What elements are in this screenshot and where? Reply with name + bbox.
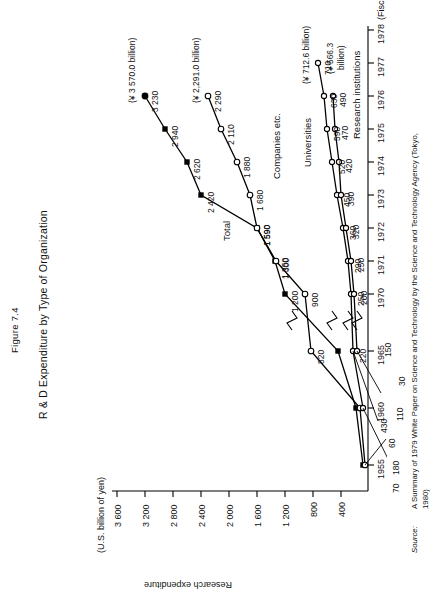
x-tick-1978: 1978 (377, 24, 386, 44)
point-label-institutions-1971: 250 (357, 258, 366, 272)
x-tick-1972: 1972 (377, 222, 386, 242)
series-label-total: Total (222, 221, 232, 241)
point-label-total-1970: 1 200 (291, 291, 300, 312)
x-tick-1973: 1973 (377, 189, 386, 209)
source-prefix: Source: (411, 526, 419, 553)
endnote-institutions-2: billion) (337, 45, 346, 70)
series-companies (208, 96, 365, 465)
point-label-universities-1965: 220 (359, 349, 368, 363)
point-label-companies-1960: 110 (396, 407, 405, 421)
point-label-institutions-1970: 200 (360, 291, 369, 305)
x-tick-1975: 1975 (377, 123, 386, 143)
series-label-universities: Universities (303, 118, 313, 167)
point-label-institutions-1965: 150 (384, 343, 393, 357)
x-axis-title: (Fiscal year) (377, 0, 386, 20)
point-label-companies-1965: 820 (317, 350, 326, 364)
point-label-total-1965: 430 (380, 419, 389, 433)
point-label-companies-1970: 900 (311, 293, 320, 307)
x-tick-1976: 1976 (377, 90, 386, 110)
series-label-institutions: Research institutions (352, 51, 362, 139)
source-line-2: 1980) (422, 489, 430, 509)
point-label-companies-1972: 1 590 (263, 225, 272, 246)
point-label-total-1960: 180 (392, 461, 401, 475)
x-tick-1971: 1971 (377, 255, 386, 275)
endnote-companies: (¥ 2,291.0 billion) (192, 38, 201, 103)
point-label-companies-1971: 1 300 (282, 258, 291, 279)
point-label-total-1974: 2 620 (193, 159, 202, 180)
point-label-total-1955: 60 (388, 439, 397, 448)
point-label-institutions-1974: 420 (345, 159, 354, 173)
point-label-institutions-1976: 490 (339, 93, 348, 107)
point-label-institutions-1975: 470 (341, 126, 350, 140)
endnote-total: (¥ 3 570.0 billion) (128, 38, 137, 103)
series-total-markers (142, 93, 366, 468)
x-tick-1974: 1974 (377, 156, 386, 176)
x-tick-1955: 1955 (377, 459, 386, 479)
point-label-universities-1960: 70 (392, 484, 401, 493)
point-label-companies-1974: 1 880 (243, 157, 252, 178)
point-label-companies-1973: 1 680 (256, 190, 265, 211)
axis-break-marks (287, 311, 362, 330)
series-companies-markers (205, 93, 368, 468)
series-label-companies: Companies etc. (272, 113, 282, 179)
point-label-companies-1955: 30 (398, 377, 407, 386)
point-label-total-1976: 3 230 (151, 91, 160, 112)
point-label-institutions-1973: 390 (347, 192, 356, 206)
point-label-institutions-1972: 320 (352, 225, 361, 239)
point-label-companies-1976: 2 290 (214, 91, 223, 112)
source-line-1: A Summary of 1979 White Paper on Science… (411, 133, 419, 509)
y-axis-title: Research expenditure (144, 580, 232, 589)
point-label-companies-1975: 2 110 (227, 124, 236, 145)
point-label-total-1975: 2 940 (171, 126, 180, 147)
x-tick-1977: 1977 (377, 57, 386, 77)
endnote-universities: (¥ 712.6 billion) (302, 26, 311, 84)
point-label-total-1973: 2 420 (207, 192, 216, 213)
x-tick-1970: 1970 (377, 288, 386, 308)
point-label-universities-1977: 710 (324, 61, 333, 75)
